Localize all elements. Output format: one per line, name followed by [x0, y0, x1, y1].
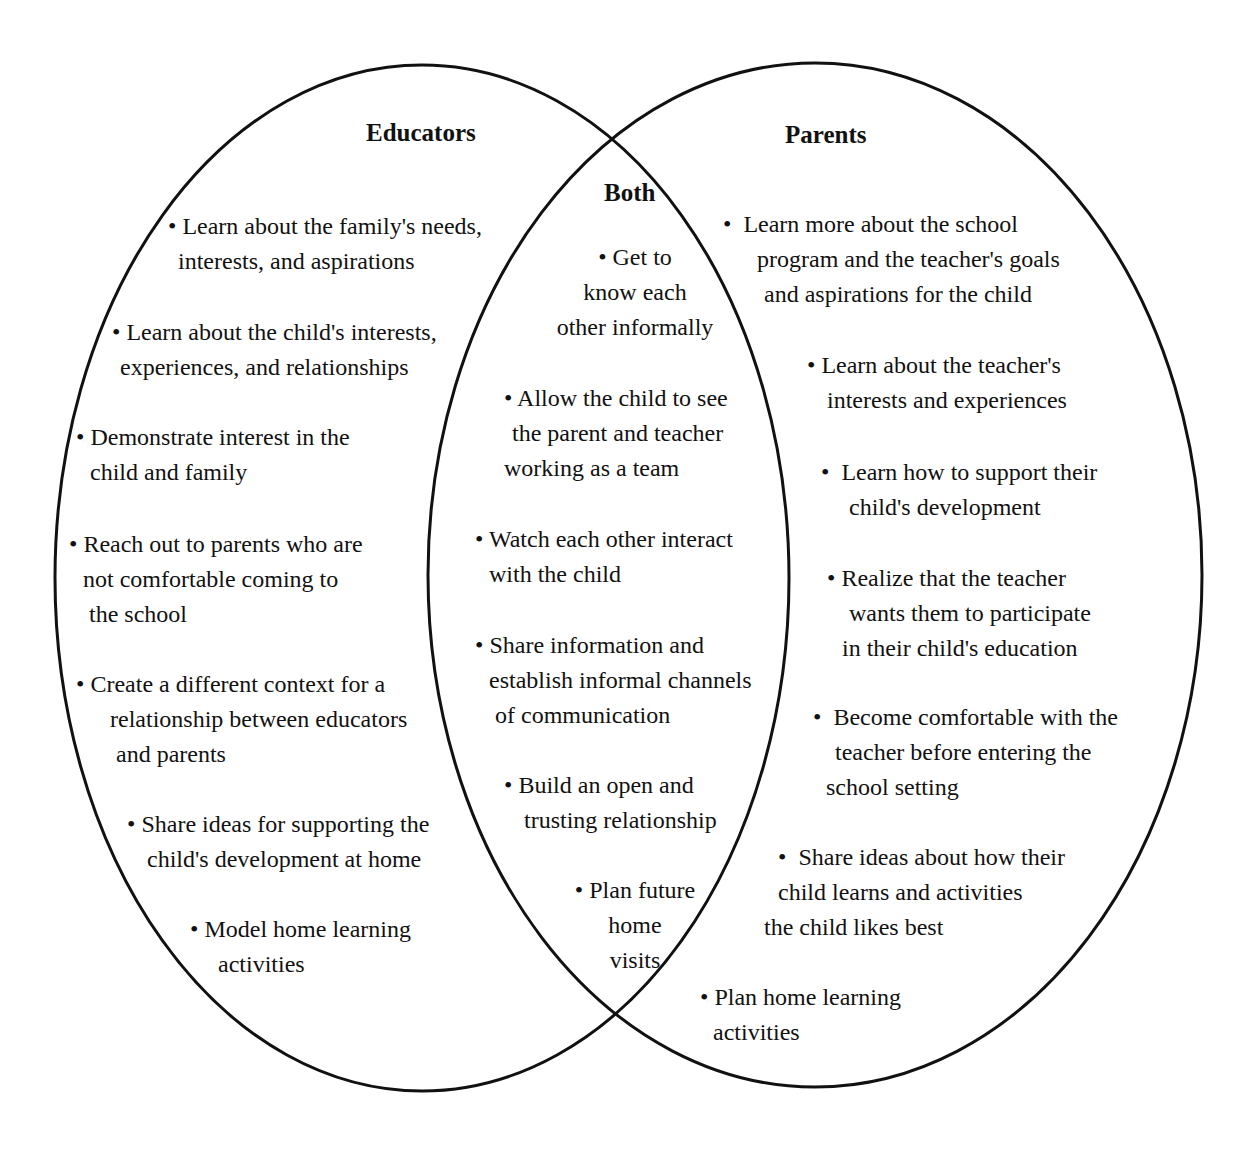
parents-item: • Realize that the teacherwants them to …: [827, 561, 1091, 666]
parents-item: • Learn more about the schoolprogram and…: [723, 207, 1060, 312]
both-item: • Watch each other interactwith the chil…: [475, 522, 733, 592]
educators-title: Educators: [366, 119, 476, 147]
both-item: • Plan futurehomevisits: [560, 873, 710, 978]
both-item: • Build an open andtrusting relationship: [504, 768, 717, 838]
both-item: • Get toknow eachother informally: [540, 240, 730, 345]
educators-item: • Demonstrate interest in thechild and f…: [76, 420, 350, 490]
both-item: • Allow the child to seethe parent and t…: [504, 381, 728, 486]
parents-item: • Become comfortable with theteacher bef…: [813, 700, 1118, 805]
educators-item: • Share ideas for supporting thechild's …: [127, 807, 429, 877]
parents-item: • Learn how to support theirchild's deve…: [821, 455, 1097, 525]
parents-item: • Share ideas about how theirchild learn…: [778, 840, 1065, 945]
educators-item: • Learn about the family's needs,interes…: [168, 209, 482, 279]
educators-item: • Create a different context for arelati…: [76, 667, 407, 772]
educators-item: • Model home learningactivities: [190, 912, 411, 982]
educators-item: • Learn about the child's interests,expe…: [112, 315, 437, 385]
parents-title: Parents: [785, 121, 866, 149]
educators-item: • Reach out to parents who arenot comfor…: [69, 527, 363, 632]
both-item: • Share information andestablish informa…: [475, 628, 752, 733]
both-title: Both: [604, 179, 655, 207]
parents-item: • Learn about the teacher'sinterests and…: [807, 348, 1067, 418]
parents-item: • Plan home learningactivities: [700, 980, 901, 1050]
